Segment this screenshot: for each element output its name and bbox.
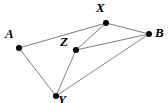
edge-z-b <box>76 34 149 50</box>
vertex-label-x: X <box>96 1 105 14</box>
vertex-dot-a <box>16 45 22 51</box>
edge-a-y <box>19 48 56 96</box>
vertex-dot-x <box>103 20 109 26</box>
vertex-dot-b <box>146 31 152 37</box>
graph-diagram: AXBZY <box>0 0 168 103</box>
vertex-label-a: A <box>5 27 14 40</box>
edge-layer <box>19 23 149 96</box>
vertex-layer <box>16 20 152 99</box>
vertex-dot-z <box>73 47 79 53</box>
vertex-label-y: Y <box>58 93 66 103</box>
edge-x-b <box>106 23 149 34</box>
graph-canvas <box>0 0 168 103</box>
vertex-label-b: B <box>155 26 164 39</box>
vertex-label-z: Z <box>60 35 68 48</box>
